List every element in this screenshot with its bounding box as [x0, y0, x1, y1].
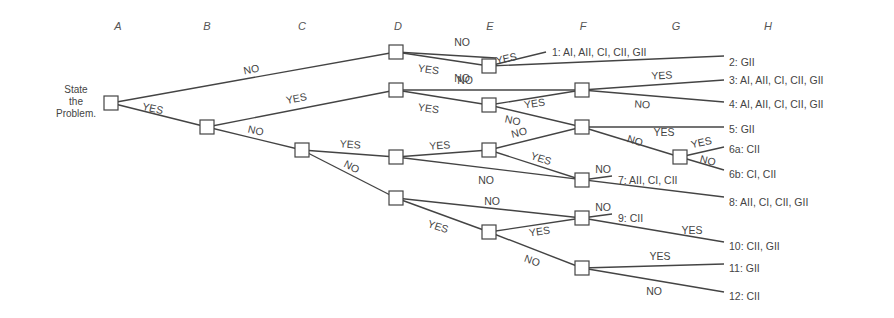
outcome-4: 4: AI, AII, CI, CII, GII [729, 98, 824, 110]
decision-node-f5 [575, 261, 589, 275]
edge-label: YES [417, 62, 439, 77]
edge-label: YES [141, 100, 164, 116]
edge-label: YES [429, 138, 451, 151]
edge-label: NO [626, 132, 645, 148]
outcome-6a: 6a: CII [729, 143, 760, 155]
decision-tree: ABCDEFGH StatetheProblem. NOYESYESNOYESN… [0, 0, 894, 318]
edge-label: YES [339, 137, 361, 150]
outcome-3: 3: AI, AII, CI, CII, GII [729, 74, 824, 86]
column-header-h: H [764, 20, 772, 32]
edge-label: NO [478, 174, 494, 186]
column-headers: ABCDEFGH [113, 20, 772, 32]
decision-node-e4 [482, 225, 496, 239]
edge-label: NO [342, 157, 362, 175]
decision-node-e2 [482, 98, 496, 112]
edge-label: NO [454, 36, 470, 48]
start-label-line: State [64, 84, 88, 95]
edge-label: YES [690, 134, 713, 150]
edge-label: YES [495, 50, 518, 66]
decision-node-e1 [482, 59, 496, 73]
edge-label: YES [285, 90, 308, 106]
outcome-7: 7: AII, CI, CII [618, 174, 678, 186]
decision-node-f1 [575, 83, 589, 97]
start-label-line: Problem. [56, 108, 96, 119]
outcome-2: 2: GII [729, 56, 755, 68]
edge-yes [396, 90, 489, 105]
edge-label: NO [523, 252, 542, 269]
decision-node-d4 [389, 191, 403, 205]
outcomes: 1: AI, AII, CI, CII, GII2: GII3: AI, AII… [552, 46, 824, 302]
decision-node-d1 [389, 45, 403, 59]
decision-node-d2 [389, 83, 403, 97]
edge-label: NO [510, 124, 528, 139]
edges [111, 52, 724, 292]
outcome-6b: 6b: CI, CII [729, 168, 776, 180]
start-label-line: the [69, 96, 83, 107]
edge-label: YES [681, 224, 702, 236]
edge-label: YES [651, 68, 673, 81]
edge-label: NO [595, 201, 611, 213]
column-header-g: G [672, 20, 681, 32]
edge-label: YES [653, 126, 674, 138]
column-header-c: C [298, 20, 306, 32]
column-header-d: D [394, 20, 402, 32]
edge-label: YES [417, 101, 439, 116]
outcome-5: 5: GII [729, 123, 755, 135]
edge-yes [582, 264, 724, 268]
edge-label: NO [595, 163, 611, 175]
decision-nodes [104, 45, 687, 275]
edge-yes [302, 150, 396, 157]
outcome-11: 11: GII [729, 262, 760, 274]
edge-label: YES [426, 217, 450, 235]
edge-yes [396, 150, 489, 157]
outcome-12: 12: CII [729, 290, 760, 302]
edge-yes [582, 80, 724, 90]
start-label: StatetheProblem. [56, 84, 96, 119]
column-header-e: E [486, 20, 494, 32]
edge-label: NO [634, 98, 650, 111]
edge-label: YES [523, 96, 545, 111]
edge-no [396, 52, 496, 58]
decision-node-c [295, 143, 309, 157]
decision-node-b [200, 120, 214, 134]
decision-node-f4 [575, 211, 589, 225]
outcome-9: 9: CII [618, 212, 643, 224]
edge-label: NO [484, 195, 500, 207]
column-header-a: A [113, 20, 121, 32]
outcome-1: 1: AI, AII, CI, CII, GII [552, 46, 647, 58]
decision-node-a [104, 96, 118, 110]
decision-node-g1 [673, 150, 687, 164]
edge-yes [582, 218, 724, 242]
decision-node-d3 [389, 150, 403, 164]
edge-label: YES [649, 250, 670, 262]
decision-node-f3 [575, 173, 589, 187]
outcome-8: 8: AII, CI, CII, GII [729, 196, 808, 208]
edge-label: NO [646, 285, 662, 297]
decision-node-e3 [482, 143, 496, 157]
edge-label: NO [457, 74, 473, 86]
edge-label: YES [528, 224, 550, 239]
edge-no [582, 90, 724, 102]
edge-no [489, 127, 582, 150]
edge-label: NO [242, 62, 260, 77]
decision-node-f2 [575, 120, 589, 134]
column-header-f: F [580, 20, 588, 32]
outcome-10: 10: CII, GII [729, 240, 780, 252]
edge-label: NO [699, 152, 717, 167]
column-header-b: B [203, 20, 210, 32]
edge-labels: NOYESYESNOYESNONOYESYESNONOYESYESNOYESNO… [141, 36, 717, 297]
edge-no [111, 52, 396, 103]
edge-label: NO [247, 122, 265, 137]
